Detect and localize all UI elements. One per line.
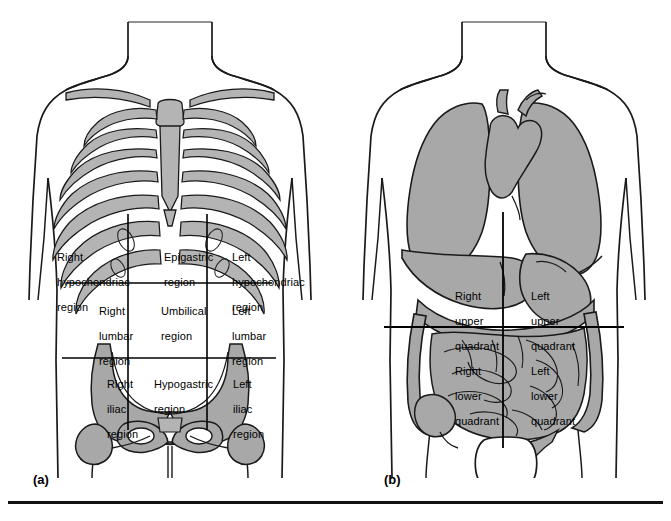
caption-panel-a: (a)	[33, 472, 49, 487]
label-umbilical: Umbilical region	[142, 292, 206, 355]
label-left-lower-quadrant: Left lower quadrant	[512, 352, 575, 440]
sternum	[156, 100, 184, 227]
label-hypogastric: Hypogastric region	[135, 365, 213, 428]
panel-b-four-quadrants: Right upper quadrant Left upper quadrant…	[340, 0, 671, 500]
panel-b-illustration	[340, 0, 671, 500]
anatomy-figure: Right hypochondriac region Epigastric re…	[0, 0, 671, 521]
panel-a-nine-regions: Right hypochondriac region Epigastric re…	[0, 0, 340, 500]
caption-panel-b: (b)	[384, 472, 401, 487]
label-left-iliac: Left iliac region	[214, 365, 264, 453]
bottom-rule	[8, 501, 663, 504]
urinary-bladder	[475, 437, 536, 492]
label-right-lower-quadrant: Right lower quadrant	[436, 352, 499, 440]
label-right-iliac: Right iliac region	[88, 365, 138, 453]
